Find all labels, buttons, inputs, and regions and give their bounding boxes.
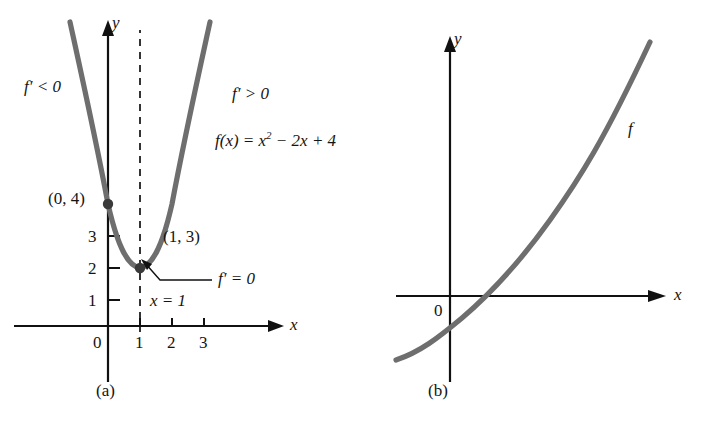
panel-b-curve-label-f: f xyxy=(628,120,633,137)
panel-a-y-tick-2: 2 xyxy=(88,260,97,277)
panel-a-axis-label-x: x xyxy=(290,316,298,333)
panel-a-axis-label-y: y xyxy=(112,14,120,31)
panel-a-x-tick-2: 2 xyxy=(167,334,176,351)
annotation-fprime-negative: f′ < 0 xyxy=(24,78,61,95)
label-fprime-equals-zero: f′ = 0 xyxy=(218,270,255,287)
panel-b-axis-label-y: y xyxy=(454,30,462,47)
panel-a-x-ticks xyxy=(140,318,204,326)
panel-a-x-axis xyxy=(14,320,284,332)
annotation-fprime-positive: f′ > 0 xyxy=(232,85,269,102)
panel-b-caption: (b) xyxy=(428,382,448,399)
label-point-0-4: (0, 4) xyxy=(48,190,85,207)
equation-prefix: f(x) = x xyxy=(215,131,266,150)
panel-b-axis-label-x: x xyxy=(674,286,682,303)
equation-label: f(x) = x2 − 2x + 4 xyxy=(215,132,336,149)
equation-suffix: − 2x + 4 xyxy=(272,131,337,150)
point-marker-1-3 xyxy=(135,263,145,273)
label-vertical-line-x-equals-1: x = 1 xyxy=(150,292,186,309)
panel-a-plot xyxy=(0,0,390,429)
panel-b-plot xyxy=(390,0,705,429)
panel-a-x-tick-1: 1 xyxy=(135,334,144,351)
panel-b-origin-label: 0 xyxy=(434,302,443,319)
panel-b-increasing-curve: f 0 x y (b) xyxy=(390,0,705,429)
panel-a-origin-label: 0 xyxy=(93,334,102,351)
panel-a-caption: (a) xyxy=(96,382,115,399)
label-point-1-3: (1, 3) xyxy=(163,228,200,245)
panel-a-parabola: f′ < 0 f′ > 0 f(x) = x2 − 2x + 4 (0, 4) … xyxy=(0,0,390,429)
panel-a-y-tick-3: 3 xyxy=(88,228,97,245)
point-marker-0-4 xyxy=(103,199,113,209)
panel-a-y-tick-1: 1 xyxy=(88,292,97,309)
figure-container: f′ < 0 f′ > 0 f(x) = x2 − 2x + 4 (0, 4) … xyxy=(0,0,705,429)
panel-a-x-tick-3: 3 xyxy=(199,334,208,351)
